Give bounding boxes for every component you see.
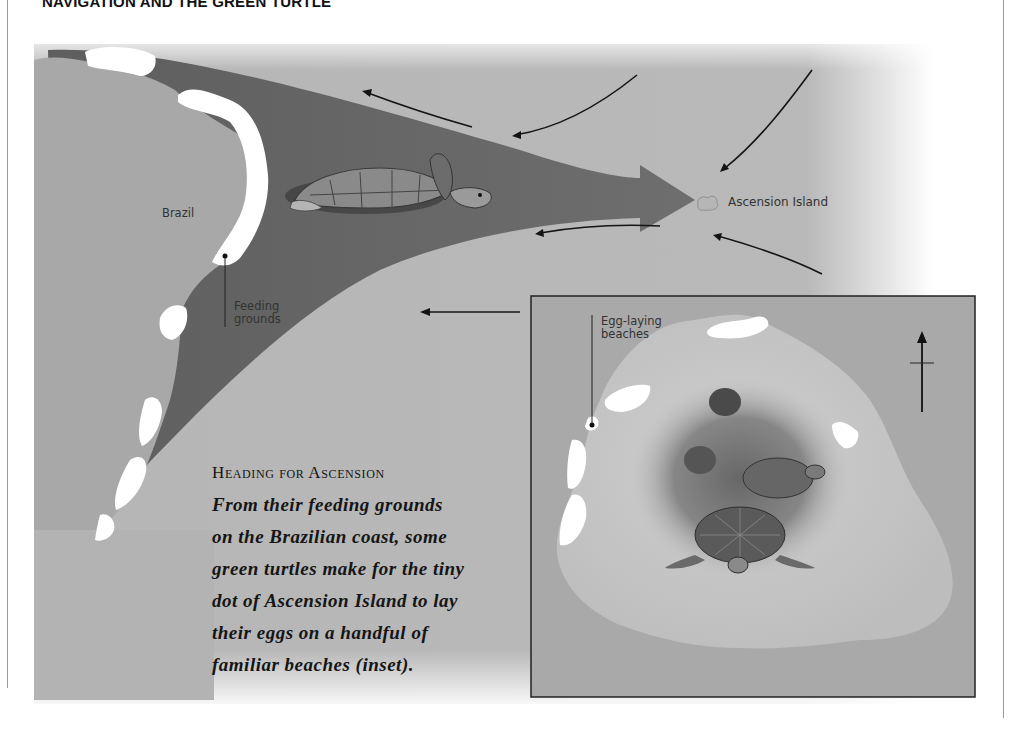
- caption-line: familiar beaches (inset).: [212, 649, 532, 681]
- map-caption: Heading for Ascension From their feeding…: [212, 463, 532, 681]
- ascension-island-shape: [698, 196, 718, 210]
- label-ascension-island: Ascension Island: [728, 196, 828, 209]
- inset-map: [531, 296, 975, 697]
- feeding-grounds-marker: [223, 254, 228, 259]
- label-brazil: Brazil: [162, 207, 194, 220]
- caption-line: From their feeding grounds: [212, 489, 532, 521]
- label-egg-laying-beaches: Egg-laying beaches: [601, 315, 662, 341]
- caption-line: dot of Ascension Island to lay: [212, 585, 532, 617]
- caption-body: From their feeding grounds on the Brazil…: [212, 489, 532, 681]
- label-egg-line-2: beaches: [601, 328, 662, 341]
- label-feeding-grounds: Feeding grounds: [234, 300, 281, 326]
- caption-line: their eggs on a handful of: [212, 617, 532, 649]
- label-feeding-line-2: grounds: [234, 313, 281, 326]
- caption-heading: Heading for Ascension: [212, 463, 532, 483]
- egg-laying-marker: [590, 423, 595, 428]
- caption-line: green turtles make for the tiny: [212, 553, 532, 585]
- caption-line: on the Brazilian coast, some: [212, 521, 532, 553]
